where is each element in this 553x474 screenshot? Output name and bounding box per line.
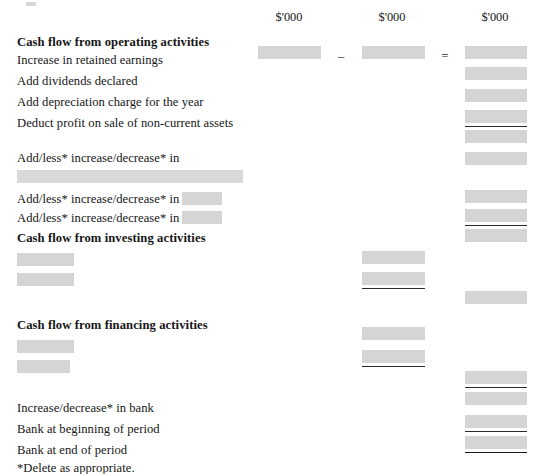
total-rule-bank-at-end-of-period [465,452,527,453]
blank-field-adjustment-3-col3[interactable] [465,152,527,165]
row-label-deduct-profit-on-sale: Deduct profit on sale of non-current ass… [17,116,233,130]
blank-field-bank-at-end-of-period[interactable] [465,436,527,449]
blank-field-bank-at-beginning-of-period[interactable] [465,415,527,428]
row-label-increase-decrease-in-bank: Increase/decrease* in bank [17,401,154,415]
blank-field-add-depreciation-charge[interactable] [465,89,527,102]
subtotal-rule-investing [362,288,425,289]
subtotal-rule-financing [362,366,425,367]
blank-field-financing-item-2-label[interactable] [17,360,70,373]
blank-field-financing-item-1-label[interactable] [17,340,74,353]
blank-field-add-dividends-declared[interactable] [465,67,527,80]
section-heading-financing: Cash flow from financing activities [17,318,208,332]
column-header-1: $'000 [256,10,322,24]
blank-field-investing-item-2-label[interactable] [17,273,74,286]
row-label-bank-at-end-of-period: Bank at end of period [17,443,127,457]
operator-equals: = [434,49,456,62]
blank-field-retained-earnings-closing[interactable] [258,46,321,59]
blank-field-investing-item-2-amount[interactable] [362,272,425,285]
row-label-adjustment-3: Add/less* increase/decrease* in [17,211,179,225]
blank-field-adjustment-3-description[interactable] [182,211,222,224]
blank-field-investing-item-1-label[interactable] [17,253,74,266]
blank-field-net-cash-from-operating[interactable] [465,229,527,242]
scan-artifact [26,2,36,6]
subtotal-rule-summary-bottom [465,431,527,432]
column-header-3: $'000 [462,10,528,24]
blank-field-adjustment-1-description[interactable] [17,170,243,183]
column-header-2: $'000 [359,10,425,24]
blank-field-deduct-profit-on-sale[interactable] [465,110,527,123]
blank-field-increase-decrease-in-bank[interactable] [465,392,527,405]
blank-field-net-cash-from-investing[interactable] [465,291,527,304]
cash-flow-worksheet-page: $'000 $'000 $'000 Cash flow from operati… [0,0,553,474]
blank-field-adjustment-2-description[interactable] [182,192,222,205]
row-label-add-dividends-declared: Add dividends declared [17,74,138,88]
blank-field-increase-retained-earnings[interactable] [465,46,527,59]
subtotal-rule-operating-before-working-capital [465,126,527,127]
footnote-delete-as-appropriate: *Delete as appropriate. [17,461,135,474]
blank-field-net-cash-from-financing[interactable] [465,371,527,384]
blank-field-financing-item-2-amount[interactable] [362,350,425,363]
subtotal-rule-summary-top [465,387,527,388]
blank-field-retained-earnings-opening[interactable] [362,46,425,59]
blank-field-investing-item-1-amount[interactable] [362,251,425,264]
blank-field-adjustment-2-col3[interactable] [465,209,527,222]
blank-field-operating-subtotal[interactable] [465,130,527,143]
row-label-increase-retained-earnings: Increase in retained earnings [17,53,163,67]
operator-minus: – [330,49,352,62]
row-label-adjustment-1: Add/less* increase/decrease* in [17,151,179,165]
blank-field-financing-item-1-amount[interactable] [362,327,425,340]
section-heading-operating: Cash flow from operating activities [17,35,209,49]
subtotal-rule-net-cash-operating [465,225,527,226]
row-label-bank-at-beginning-of-period: Bank at beginning of period [17,422,160,436]
blank-field-adjustment-1-col3[interactable] [465,190,527,203]
row-label-add-depreciation-charge: Add depreciation charge for the year [17,95,204,109]
section-heading-investing: Cash flow from investing activities [17,231,206,245]
row-label-adjustment-2: Add/less* increase/decrease* in [17,192,179,206]
